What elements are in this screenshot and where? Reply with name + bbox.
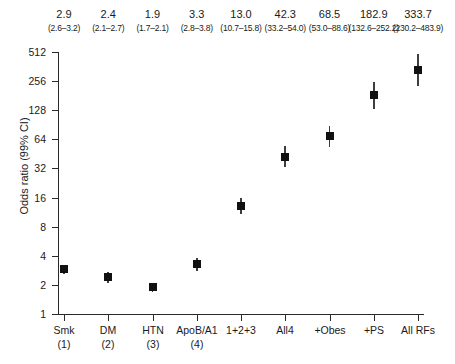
x-axis-label-main: +PS <box>364 324 384 336</box>
x-axis-label-main: Smk <box>54 324 75 336</box>
y-axis-tick-mark <box>52 227 58 228</box>
y-axis-tick-label: 8 <box>40 222 46 233</box>
plot-area: Odds ratio (99% CI) 5122561286432168421 … <box>0 0 455 364</box>
x-axis-tick-mark <box>374 315 375 321</box>
y-axis-tick-label: 4 <box>40 251 46 262</box>
y-axis-line <box>58 52 59 314</box>
y-axis-tick-label: 512 <box>28 47 46 58</box>
y-axis-tick-mark <box>52 110 58 111</box>
y-axis-tick-mark <box>52 81 58 82</box>
x-axis-label-main: HTN <box>142 324 164 336</box>
data-marker <box>237 202 245 210</box>
data-marker <box>193 260 201 268</box>
y-axis-tick-mark <box>52 52 58 53</box>
y-axis-tick-mark <box>52 139 58 140</box>
data-marker <box>414 66 422 74</box>
data-marker <box>326 132 334 140</box>
x-axis-label-main: +Obes <box>314 324 345 336</box>
x-axis-tick-mark <box>108 315 109 321</box>
y-axis-tick-label: 2 <box>40 280 46 291</box>
data-marker <box>281 153 289 161</box>
y-axis-tick-label: 1 <box>40 309 46 320</box>
x-axis-label-sub: (4) <box>165 338 229 351</box>
x-axis-label-main: 1+2+3 <box>226 324 256 336</box>
x-axis-label-main: All RFs <box>401 324 435 336</box>
y-axis-tick-label: 32 <box>34 163 46 174</box>
y-axis-tick-mark <box>52 256 58 257</box>
data-marker <box>104 273 112 281</box>
y-axis-tick-label: 128 <box>28 105 46 116</box>
odds-ratio-forest-chart: 2.9(2.6–3.2)2.4(2.1–2.7)1.9(1.7–2.1)3.3(… <box>0 0 455 364</box>
x-axis-tick-mark <box>330 315 331 321</box>
x-axis-label-main: All4 <box>276 324 294 336</box>
y-axis-tick-mark <box>52 285 58 286</box>
x-axis-tick-mark <box>418 315 419 321</box>
y-axis-tick-label: 16 <box>34 193 46 204</box>
x-axis-tick-mark <box>197 315 198 321</box>
y-axis-tick-mark <box>52 198 58 199</box>
y-axis-tick-label: 64 <box>34 134 46 145</box>
data-marker <box>60 265 68 273</box>
data-marker <box>370 91 378 99</box>
y-axis-tick-label: 256 <box>28 76 46 87</box>
y-axis-tick-mark <box>52 314 58 315</box>
x-axis-tick-mark <box>241 315 242 321</box>
y-axis-tick-mark <box>52 168 58 169</box>
x-axis-tick-mark <box>64 315 65 321</box>
x-axis-label-main: DM <box>100 324 116 336</box>
x-axis-tick-label: All RFs <box>386 324 450 337</box>
data-marker <box>149 283 157 291</box>
x-axis-tick-mark <box>153 315 154 321</box>
x-axis-tick-mark <box>285 315 286 321</box>
